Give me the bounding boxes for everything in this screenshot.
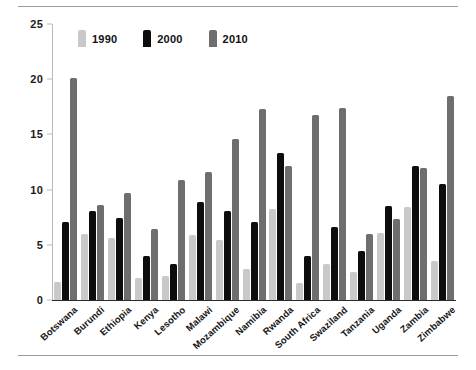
bar[interactable]: [412, 166, 419, 300]
bar[interactable]: [97, 205, 104, 300]
bar[interactable]: [331, 227, 338, 300]
bar-group: [404, 24, 427, 300]
bar-group: [54, 24, 77, 300]
bar[interactable]: [124, 193, 131, 300]
bar[interactable]: [89, 211, 96, 300]
x-axis-line: [52, 300, 456, 301]
bar[interactable]: [62, 222, 69, 300]
bar[interactable]: [205, 172, 212, 300]
bar-group: [162, 24, 185, 300]
bar[interactable]: [431, 261, 438, 300]
bar[interactable]: [108, 238, 115, 300]
bar[interactable]: [377, 233, 384, 300]
bar[interactable]: [116, 218, 123, 300]
bar-group: [108, 24, 131, 300]
top-divider-rule: [18, 6, 458, 7]
bar[interactable]: [162, 276, 169, 300]
bar[interactable]: [70, 78, 77, 300]
bar[interactable]: [312, 115, 319, 300]
bar[interactable]: [135, 278, 142, 300]
bar-group: [243, 24, 266, 300]
bar[interactable]: [304, 256, 311, 300]
bar[interactable]: [420, 168, 427, 300]
bar[interactable]: [197, 202, 204, 300]
bar[interactable]: [323, 264, 330, 300]
bar[interactable]: [285, 166, 292, 300]
bar[interactable]: [259, 109, 266, 300]
chart-figure: 199020002010 0510152025 BotswanaBurundiE…: [0, 0, 476, 370]
bar[interactable]: [358, 251, 365, 300]
bar[interactable]: [216, 240, 223, 300]
bar[interactable]: [178, 180, 185, 300]
y-axis-tick-mark: [47, 189, 52, 190]
bar[interactable]: [81, 234, 88, 300]
bar-group: [296, 24, 319, 300]
bar[interactable]: [170, 264, 177, 300]
bar[interactable]: [143, 256, 150, 300]
bar-group: [323, 24, 346, 300]
bar-group: [189, 24, 212, 300]
y-axis-tick-mark: [47, 24, 52, 25]
bar[interactable]: [251, 222, 258, 300]
bar-group: [350, 24, 373, 300]
bar[interactable]: [224, 211, 231, 300]
bar[interactable]: [277, 153, 284, 300]
y-axis-tick-mark: [47, 79, 52, 80]
bar[interactable]: [189, 235, 196, 300]
bar[interactable]: [269, 209, 276, 300]
bar-group: [135, 24, 158, 300]
bar-group: [269, 24, 292, 300]
bar-group: [81, 24, 104, 300]
bar[interactable]: [232, 139, 239, 300]
bar[interactable]: [404, 207, 411, 300]
bar[interactable]: [350, 272, 357, 300]
bar[interactable]: [447, 96, 454, 300]
bar[interactable]: [366, 234, 373, 300]
bar[interactable]: [385, 206, 392, 300]
bar-group: [377, 24, 400, 300]
bar[interactable]: [243, 269, 250, 300]
bar[interactable]: [339, 108, 346, 300]
x-axis-tick-label: Botswana: [39, 304, 80, 343]
bar[interactable]: [151, 229, 158, 300]
plot-area: 0510152025: [52, 24, 456, 300]
bottom-divider-rule: [18, 355, 458, 356]
y-axis-tick-mark: [47, 244, 52, 245]
bar[interactable]: [439, 184, 446, 300]
bar[interactable]: [296, 283, 303, 300]
y-axis-tick-mark: [47, 134, 52, 135]
bar-group: [431, 24, 454, 300]
bar[interactable]: [54, 282, 61, 300]
bar-group: [216, 24, 239, 300]
y-axis-tick-mark: [47, 300, 52, 301]
bar[interactable]: [393, 219, 400, 300]
